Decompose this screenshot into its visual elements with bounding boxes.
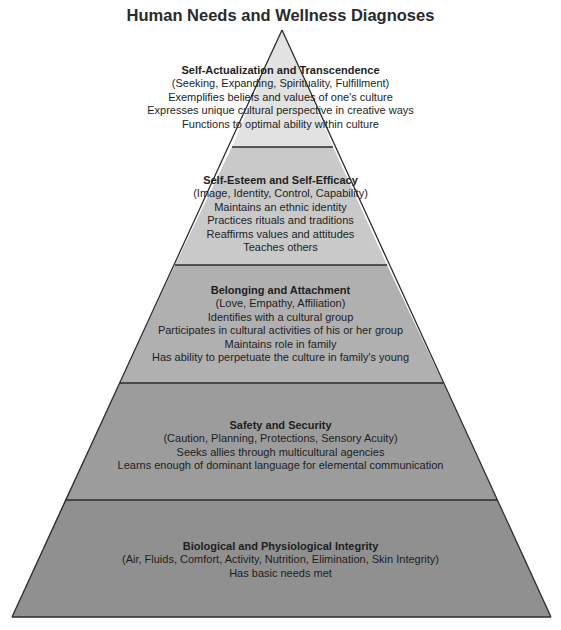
tier-heading: Self-Esteem and Self-Efficacy [0, 174, 561, 187]
tier-heading: Biological and Physiological Integrity [0, 540, 561, 553]
tier-item: Maintains an ethnic identity [0, 201, 561, 214]
tier-item: Practices rituals and traditions [0, 214, 561, 227]
tier-safety: Safety and Security (Caution, Planning, … [0, 419, 561, 473]
tier-self-actualization: Self-Actualization and Transcendence (Se… [0, 64, 561, 131]
tier-item: Exemplifies beliefs and values of one's … [0, 91, 561, 104]
tier-item: Reaffirms values and attitudes [0, 228, 561, 241]
tier-item: Has basic needs met [0, 567, 561, 580]
tier-item: Functions to optimal ability within cult… [0, 118, 561, 131]
tier-self-esteem: Self-Esteem and Self-Efficacy (Image, Id… [0, 174, 561, 254]
tier-item: Expresses unique cultural perspective in… [0, 104, 561, 117]
tier-heading: Safety and Security [0, 419, 561, 432]
tier-item: Seeks allies through multicultural agenc… [0, 446, 561, 459]
tier-item: Has ability to perpetuate the culture in… [0, 351, 561, 364]
tier-subheading: (Image, Identity, Control, Capability) [0, 187, 561, 200]
tier-subheading: (Air, Fluids, Comfort, Activity, Nutriti… [0, 553, 561, 566]
tier-heading: Belonging and Attachment [0, 284, 561, 297]
tier-subheading: (Love, Empathy, Affiliation) [0, 297, 561, 310]
tier-item: Identifies with a cultural group [0, 311, 561, 324]
tier-belonging: Belonging and Attachment (Love, Empathy,… [0, 284, 561, 364]
tier-item: Participates in cultural activities of h… [0, 324, 561, 337]
tier-item: Learns enough of dominant language for e… [0, 459, 561, 472]
tier-heading: Self-Actualization and Transcendence [0, 64, 561, 77]
tier-item: Teaches others [0, 241, 561, 254]
tier-subheading: (Caution, Planning, Protections, Sensory… [0, 432, 561, 445]
tier-biological: Biological and Physiological Integrity (… [0, 540, 561, 580]
tier-subheading: (Seeking, Expanding, Spirituality, Fulfi… [0, 77, 561, 90]
tier-item: Maintains role in family [0, 338, 561, 351]
